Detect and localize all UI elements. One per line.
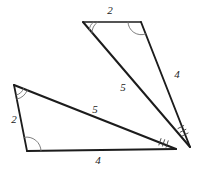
lower-triangle-hypotenuse-edge-label: 5: [92, 103, 98, 115]
figure-canvas: 2 4 5 2 4 5: [0, 0, 198, 172]
lower-triangle-bottom-edge-label: 4: [95, 154, 101, 166]
upper-triangle: 2 4 5: [83, 4, 190, 147]
upper-triangle-right-edge: [141, 22, 190, 147]
geometry-figure: 2 4 5 2 4 5: [0, 0, 198, 172]
lower-triangle-bottom-edge: [27, 149, 176, 151]
upper-triangle-angle-arc-top-left-outer: [92, 22, 98, 33]
upper-triangle-hypotenuse-edge-label: 5: [120, 81, 126, 93]
lower-triangle-hypotenuse-edge: [14, 85, 176, 149]
upper-triangle-hypotenuse-edge: [83, 22, 190, 147]
upper-triangle-top-edge-label: 2: [107, 4, 113, 16]
upper-triangle-right-edge-label: 4: [174, 68, 180, 80]
lower-triangle-angle-arc-top-left-inner: [16, 89, 24, 96]
lower-triangle-left-edge-label: 2: [11, 113, 17, 125]
lower-triangle: 2 4 5: [11, 85, 176, 166]
